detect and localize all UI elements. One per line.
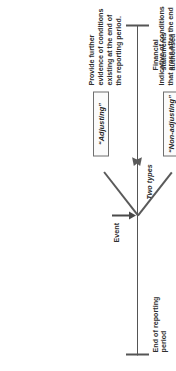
type-box-adjusting: “Adjusting” xyxy=(93,91,109,156)
diagram-viewport: End of reporting period Financial statem… xyxy=(0,0,176,371)
timeline-start-label: End of reporting period xyxy=(152,296,169,352)
timeline-start-cap xyxy=(126,353,149,355)
type-box-non-adjusting: “Non-adjusting” xyxy=(163,91,176,156)
type-box-adjusting-label: “Adjusting” xyxy=(97,102,106,144)
branch-arrow-adjusting xyxy=(103,171,138,215)
type-description-non-adjusting: Indicative of conditions that arose afte… xyxy=(158,0,176,85)
timeline-axis-line xyxy=(137,25,138,355)
event-label: Event xyxy=(113,222,121,242)
diagram-stage: End of reporting period Financial statem… xyxy=(0,0,176,371)
type-box-non-adjusting-label: “Non-adjusting” xyxy=(167,95,176,153)
type-description-adjusting: Provide further evidence of conditions e… xyxy=(88,0,124,85)
branch-arrow-non-adjusting xyxy=(137,171,172,215)
timeline-end-cap xyxy=(126,24,149,26)
